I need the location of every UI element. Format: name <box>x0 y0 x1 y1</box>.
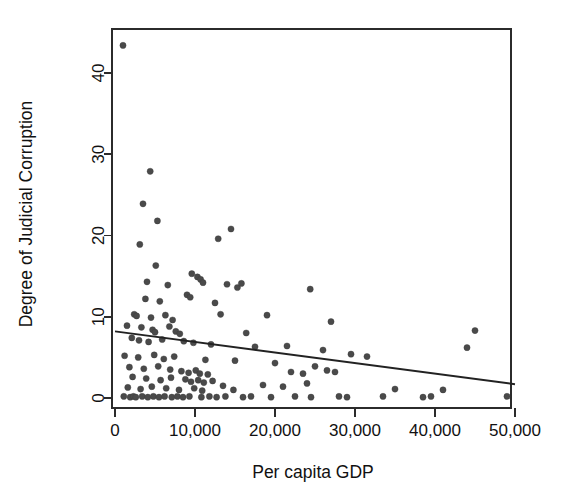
data-point <box>348 351 354 357</box>
data-point <box>148 314 154 320</box>
data-point <box>336 393 342 399</box>
data-point <box>248 393 254 399</box>
data-point <box>232 358 238 364</box>
data-point <box>186 370 192 376</box>
data-point <box>210 378 216 384</box>
data-point <box>332 369 338 375</box>
data-point <box>324 367 330 373</box>
data-point <box>186 393 192 399</box>
data-point <box>158 377 164 383</box>
data-point <box>189 271 195 277</box>
data-point <box>304 380 310 386</box>
data-point <box>220 383 226 389</box>
data-point <box>135 354 141 360</box>
data-point <box>174 393 180 399</box>
data-point <box>170 317 176 323</box>
y-tick-label: 10 <box>89 307 108 326</box>
data-point <box>124 323 130 329</box>
data-point <box>440 387 446 393</box>
data-point <box>178 368 184 374</box>
data-point <box>300 371 306 377</box>
data-point <box>167 366 173 372</box>
data-point <box>472 327 478 333</box>
data-point <box>140 201 146 207</box>
data-point <box>142 296 148 302</box>
data-point <box>139 393 145 399</box>
data-point <box>177 331 183 337</box>
data-point <box>156 394 162 400</box>
data-point <box>224 281 230 287</box>
data-point <box>320 347 326 353</box>
data-point <box>137 241 143 247</box>
data-point <box>268 394 274 400</box>
data-point <box>150 393 156 399</box>
data-point <box>215 236 221 242</box>
data-point <box>280 384 286 390</box>
data-point <box>187 294 193 300</box>
data-point <box>163 385 169 391</box>
data-point <box>152 329 158 335</box>
plot-frame <box>112 29 511 408</box>
y-tick-label: 0 <box>89 393 108 402</box>
data-point <box>191 385 197 391</box>
data-point <box>169 394 175 400</box>
data-point <box>284 343 290 349</box>
data-point <box>212 300 218 306</box>
chart-canvas: 010203040 010,00020,00030,00040,00050,00… <box>0 0 571 502</box>
data-point <box>136 337 142 343</box>
data-point <box>149 384 155 390</box>
data-point <box>153 262 159 268</box>
data-point <box>230 387 236 393</box>
data-point <box>260 382 266 388</box>
data-point <box>238 280 244 286</box>
data-point <box>180 394 186 400</box>
data-point <box>166 323 172 329</box>
data-point <box>145 394 151 400</box>
data-point <box>312 363 318 369</box>
data-point <box>214 394 220 400</box>
data-point <box>146 339 152 345</box>
data-point <box>138 324 144 330</box>
data-point <box>151 352 157 358</box>
data-point <box>157 298 163 304</box>
data-point <box>197 371 203 377</box>
data-point <box>121 393 127 399</box>
data-point <box>288 369 294 375</box>
data-point <box>392 386 398 392</box>
data-point <box>328 319 334 325</box>
x-tick-label: 20,000 <box>249 421 301 440</box>
data-point <box>198 394 204 400</box>
data-point <box>129 335 135 341</box>
x-tick-label: 0 <box>110 421 119 440</box>
y-tick-label: 20 <box>89 226 108 245</box>
data-points <box>120 42 510 400</box>
data-point <box>165 282 171 288</box>
data-point <box>380 393 386 399</box>
data-point <box>155 363 161 369</box>
y-tick-label: 30 <box>89 145 108 164</box>
data-point <box>201 379 207 385</box>
data-point <box>307 286 313 292</box>
data-point <box>292 393 298 399</box>
x-axis-title: Per capita GDP <box>252 462 374 482</box>
data-point <box>154 218 160 224</box>
data-point <box>243 330 249 336</box>
data-point <box>130 374 136 380</box>
data-point <box>206 393 212 399</box>
data-point <box>264 312 270 318</box>
data-point <box>364 353 370 359</box>
data-point <box>272 360 278 366</box>
data-point <box>200 280 206 286</box>
data-point <box>195 377 201 383</box>
data-point <box>161 356 167 362</box>
data-point <box>168 375 174 381</box>
data-point <box>126 364 132 370</box>
data-point <box>143 375 149 381</box>
data-point <box>141 366 147 372</box>
data-point <box>228 226 234 232</box>
y-axis-tick-labels: 010203040 <box>89 64 108 403</box>
y-axis-title: Degree of Judicial Corruption <box>16 101 36 328</box>
data-point <box>218 311 224 317</box>
data-point <box>344 394 350 400</box>
data-point <box>428 393 434 399</box>
